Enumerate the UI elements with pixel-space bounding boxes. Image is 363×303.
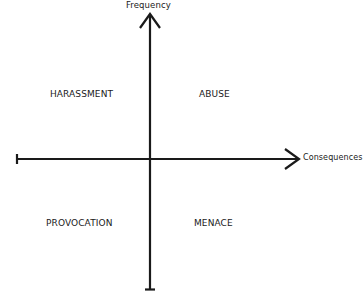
quadrant-label-bottom-right: MENACE [194, 218, 233, 228]
x-axis-label: Consequences [303, 153, 362, 162]
quadrant-label-top-right: ABUSE [199, 89, 230, 99]
quadrant-diagram [0, 0, 363, 303]
quadrant-label-top-left: HARASSMENT [50, 89, 113, 99]
quadrant-label-bottom-left: PROVOCATION [46, 218, 113, 228]
y-axis-label: Frequency [126, 0, 171, 10]
